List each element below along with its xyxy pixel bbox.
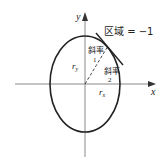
slope2-number: 2: [108, 76, 112, 84]
region-label: 区域 = −1: [104, 25, 153, 37]
y-axis-arrow-icon: [82, 12, 88, 21]
x-axis-label: x: [150, 86, 156, 97]
slope1-label: 斜率: [88, 45, 104, 55]
rx-label: rx: [99, 87, 106, 98]
y-axis-label: y: [75, 11, 81, 22]
ellipse-diagram: x y 区域 = −1 斜率 1 斜率 2 ry rx: [0, 0, 165, 168]
slope1-number: 1: [93, 56, 97, 64]
ry-label: ry: [72, 61, 79, 72]
slope2-label: 斜率: [104, 66, 120, 76]
